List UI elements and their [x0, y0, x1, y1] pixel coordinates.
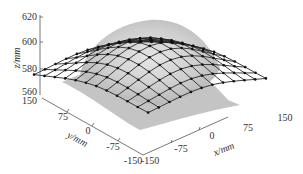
- x-axis-label: x/mm: [211, 140, 236, 159]
- mesh-node: [243, 79, 246, 82]
- mesh-node: [180, 56, 183, 59]
- z-axis-label: z/mm: [11, 47, 22, 69]
- mesh-node: [213, 51, 216, 54]
- mesh-node: [149, 45, 152, 48]
- mesh-node: [179, 95, 182, 98]
- mesh-node: [137, 93, 140, 96]
- mesh-node: [108, 43, 111, 46]
- mesh-node: [265, 77, 268, 80]
- z-tick-620: 620: [22, 11, 37, 22]
- mesh-node: [147, 100, 150, 103]
- mesh-node: [117, 46, 120, 49]
- mesh-node: [126, 100, 129, 103]
- mesh-node: [179, 82, 182, 85]
- mesh-node: [138, 50, 141, 53]
- mesh-node: [54, 63, 57, 66]
- mesh-node: [85, 61, 88, 64]
- mesh-node: [159, 51, 162, 54]
- mesh-node: [96, 53, 99, 56]
- mesh-node: [211, 83, 214, 86]
- mesh-node: [159, 64, 162, 67]
- mesh-node: [170, 48, 173, 51]
- mesh-node: [138, 63, 141, 66]
- x-tick-75: 75: [243, 122, 253, 133]
- mesh-node: [75, 62, 78, 65]
- mesh-node: [158, 106, 161, 109]
- mesh-node: [180, 68, 183, 71]
- mesh-node: [127, 58, 130, 61]
- mesh-node: [169, 87, 172, 90]
- mesh-node: [212, 57, 215, 60]
- x-tick-0: 0: [210, 130, 215, 141]
- mesh-node: [222, 72, 225, 75]
- mesh-node: [75, 56, 78, 59]
- mesh-node: [161, 40, 164, 43]
- mesh-node: [234, 60, 237, 63]
- y-tick-150: 150: [22, 95, 37, 106]
- mesh-node: [65, 62, 68, 65]
- mesh-node: [254, 72, 257, 75]
- mesh-node: [116, 81, 119, 84]
- mesh-node: [85, 81, 88, 84]
- mesh-node: [44, 68, 47, 71]
- mesh-node: [65, 57, 68, 60]
- mesh-node: [95, 85, 98, 88]
- surface-plot: 620 600 580 560 z/mm 150 75 0 -75 -150 y…: [0, 0, 303, 174]
- mesh-node: [201, 55, 204, 58]
- mesh-node: [117, 54, 120, 57]
- mesh-node: [158, 93, 161, 96]
- mesh-node: [223, 64, 226, 67]
- mesh-node: [201, 63, 204, 66]
- mesh-node: [222, 81, 225, 84]
- mesh-node: [75, 69, 78, 72]
- x-tick-neg150: -150: [141, 155, 159, 166]
- mesh-node: [128, 47, 131, 50]
- y-tick-neg75: -75: [106, 141, 119, 152]
- mesh-node: [85, 70, 88, 73]
- mesh-node: [147, 111, 150, 114]
- mesh-node: [106, 53, 109, 56]
- mesh-node: [212, 53, 215, 56]
- mesh-node: [190, 65, 193, 68]
- mesh-node: [106, 63, 109, 66]
- mesh-node: [182, 43, 185, 46]
- mesh-node: [96, 62, 99, 65]
- mesh-node: [190, 77, 193, 80]
- mesh-node: [169, 59, 172, 62]
- mesh-node: [76, 53, 79, 56]
- mesh-node: [192, 45, 195, 48]
- mesh-node: [97, 45, 100, 48]
- mesh-node: [116, 67, 119, 70]
- mesh-node: [200, 87, 203, 90]
- mesh-node: [233, 65, 236, 68]
- mesh-node: [180, 47, 183, 50]
- mesh-node: [158, 79, 161, 82]
- mesh-node: [43, 75, 46, 78]
- mesh-node: [223, 55, 226, 58]
- mesh-node: [54, 69, 57, 72]
- y-tick-75: 75: [58, 111, 68, 122]
- mesh-node: [107, 47, 110, 50]
- mesh-node: [244, 72, 247, 75]
- mesh-node: [136, 106, 139, 109]
- mesh-node: [201, 74, 204, 77]
- mesh-node: [254, 78, 257, 81]
- mesh-node: [191, 54, 194, 57]
- mesh-node: [137, 78, 140, 81]
- mesh-node: [64, 69, 67, 72]
- mesh-node: [105, 89, 108, 92]
- mesh-node: [151, 39, 154, 42]
- z-tick-580: 580: [22, 63, 37, 74]
- z-tick-600: 600: [22, 36, 37, 47]
- mesh-node: [86, 49, 89, 52]
- y-tick-0: 0: [86, 125, 91, 136]
- mesh-node: [140, 40, 143, 43]
- mesh-node: [202, 47, 205, 50]
- mesh-node: [148, 71, 151, 74]
- mesh-node: [74, 79, 77, 82]
- x-tick-neg75: -75: [174, 143, 187, 154]
- mesh-node: [126, 87, 129, 90]
- mesh-node: [169, 73, 172, 76]
- mesh-node: [106, 76, 109, 79]
- mesh-node: [244, 66, 247, 69]
